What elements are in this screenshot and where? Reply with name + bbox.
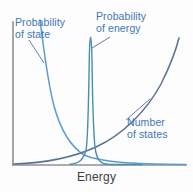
x-axis-label: Energy bbox=[0, 170, 193, 184]
plot-canvas bbox=[0, 0, 193, 192]
leader-line-probability-of-state bbox=[29, 40, 44, 63]
leader-line-probability-of-energy bbox=[92, 37, 110, 48]
curve-number-of-states bbox=[14, 38, 179, 164]
curve-probability-of-state bbox=[40, 20, 186, 164]
curve-probability-of-energy bbox=[70, 38, 142, 165]
physics-distribution-figure: Probability of state Probability of ener… bbox=[0, 0, 193, 192]
